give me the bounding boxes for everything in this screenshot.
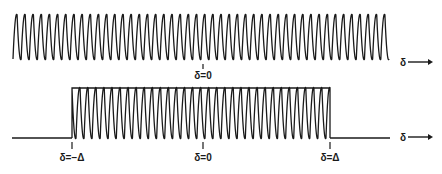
bottom-tick-label: δ=−Δ xyxy=(60,152,85,163)
figure: δ=0 δ δ=−Δδ=0δ=Δ δ xyxy=(0,0,442,174)
top-axis-symbol: δ xyxy=(400,57,406,68)
top-center-tick-label: δ=0 xyxy=(194,70,212,81)
bottom-tick-label: δ=0 xyxy=(194,152,212,163)
arrow-right-icon xyxy=(428,59,433,65)
arrow-right-icon xyxy=(428,134,433,140)
windowed-sinusoid xyxy=(72,87,330,138)
continuous-sinusoid xyxy=(13,14,389,59)
bottom-panel: δ=−Δδ=0δ=Δ δ xyxy=(12,87,433,163)
top-panel: δ=0 δ xyxy=(13,14,433,81)
top-axis-label: δ xyxy=(400,57,433,68)
bottom-axis-label: δ xyxy=(400,132,433,143)
bottom-axis-symbol: δ xyxy=(400,132,406,143)
bottom-tick-label: δ=Δ xyxy=(320,152,339,163)
bottom-ticks: δ=−Δδ=0δ=Δ xyxy=(60,142,340,163)
